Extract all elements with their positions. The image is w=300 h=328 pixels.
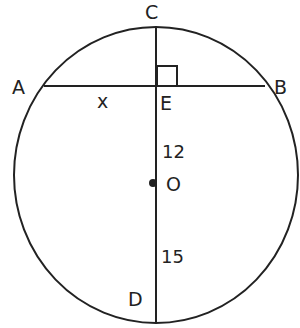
label-e: E: [160, 92, 172, 114]
geometry-diagram: C A B E O D x 12 15: [0, 0, 300, 328]
right-angle-marker: [157, 66, 177, 86]
label-b: B: [274, 76, 287, 98]
label-x: x: [97, 90, 108, 112]
center-point-o: [149, 179, 157, 187]
label-a: A: [12, 76, 25, 98]
label-15: 15: [161, 246, 184, 267]
label-d: D: [128, 288, 143, 310]
label-o: O: [166, 173, 181, 195]
label-12: 12: [162, 141, 185, 162]
label-c: C: [145, 1, 158, 23]
